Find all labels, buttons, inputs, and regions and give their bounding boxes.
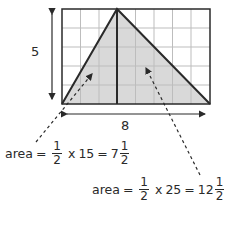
fraction-half: 1 2 <box>52 140 62 167</box>
eq-whole: 7 <box>111 146 119 161</box>
height-label: 5 <box>31 45 39 58</box>
fraction-result: 1 2 <box>215 176 225 203</box>
eq-value: 25 <box>165 182 181 197</box>
eq-whole: 12 <box>198 182 214 197</box>
eq-value: 15 <box>78 146 94 161</box>
eq-equals-2: = <box>184 182 194 197</box>
equation-left: area = 1 2 x 15 = 7 1 2 <box>5 140 132 167</box>
eq-word: area <box>5 146 33 161</box>
eq-word: area <box>92 182 120 197</box>
eq-equals: = <box>36 146 46 161</box>
eq-times: x <box>68 146 75 161</box>
eq-equals: = <box>123 182 133 197</box>
fraction-result: 1 2 <box>120 140 130 167</box>
fraction-half: 1 2 <box>139 176 149 203</box>
eq-equals-2: = <box>97 146 107 161</box>
width-label: 8 <box>121 119 129 132</box>
equation-right: area = 1 2 x 25 = 12 1 2 <box>92 176 227 203</box>
eq-times: x <box>155 182 162 197</box>
pointer-arrow-left <box>36 74 92 142</box>
